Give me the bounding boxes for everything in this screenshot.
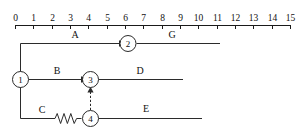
axis-tick-label-12: 12 (231, 13, 241, 23)
activity-c-spring-delay-symbol (55, 114, 82, 124)
node-3[interactable]: 3 (83, 72, 99, 88)
activity-label-c: C (39, 104, 46, 115)
axis-tick-label-8: 8 (160, 13, 165, 23)
axis-tick-label-6: 6 (123, 13, 128, 23)
axis-tick-label-4: 4 (86, 13, 91, 23)
axis-tick-label-7: 7 (141, 13, 146, 23)
axis-tick-label-0: 0 (13, 13, 18, 23)
network-nodes: 1 2 3 4 (13, 36, 137, 127)
activity-label-b: B (54, 65, 61, 76)
node-1[interactable]: 1 (13, 72, 29, 88)
axis-tick-label-11: 11 (213, 13, 222, 23)
activity-label-e: E (143, 103, 149, 114)
axis-tick-label-13: 13 (249, 13, 259, 23)
axis-tick-label-15: 15 (286, 13, 296, 23)
network-diagram-canvas: 0123456789101112131415 (0, 0, 300, 136)
node-2-label: 2 (126, 39, 131, 49)
node-4-label: 4 (88, 114, 93, 124)
axis-tick-label-5: 5 (105, 13, 110, 23)
node-3-label: 3 (88, 75, 93, 85)
axis-tick-label-group: 0123456789101112131415 (13, 13, 295, 23)
node-4[interactable]: 4 (83, 111, 99, 127)
activity-edges (21, 40, 221, 123)
node-1-label: 1 (18, 75, 23, 85)
axis-tick-label-1: 1 (31, 13, 36, 23)
axis-tick-label-14: 14 (268, 13, 278, 23)
activity-label-a: A (71, 29, 79, 40)
axis-tick-label-10: 10 (194, 13, 204, 23)
axis-tick-label-9: 9 (178, 13, 183, 23)
activity-label-g: G (168, 29, 175, 40)
activity-label-group: AGBDCE (39, 29, 176, 115)
time-axis: 0123456789101112131415 (13, 13, 295, 29)
axis-tick-label-2: 2 (50, 13, 55, 23)
axis-tick-label-3: 3 (68, 13, 73, 23)
node-2[interactable]: 2 (120, 36, 136, 52)
activity-label-d: D (136, 65, 143, 76)
activity-network-diagram: 0123456789101112131415 (0, 0, 300, 136)
